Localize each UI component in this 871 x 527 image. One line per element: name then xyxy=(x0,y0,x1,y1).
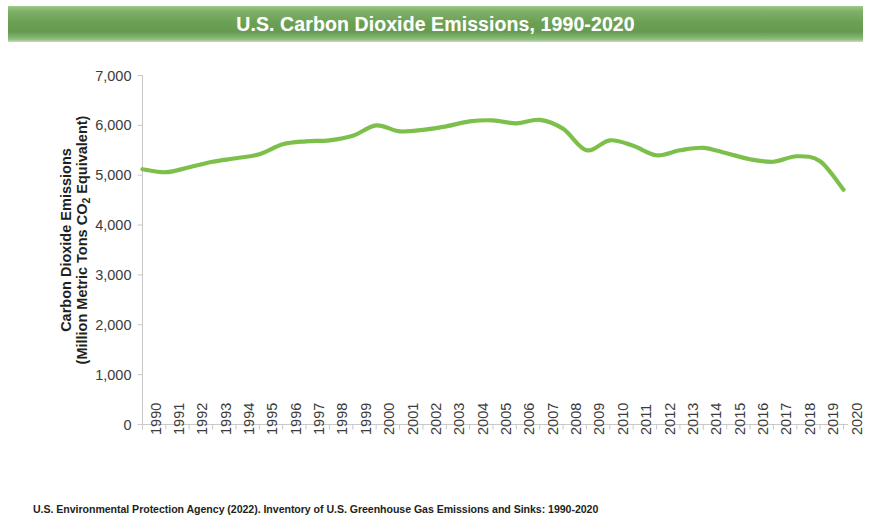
x-axis-tick-label: 2007 xyxy=(546,402,561,434)
x-axis-tick-label: 2018 xyxy=(803,402,818,434)
x-axis-tick-label: 2008 xyxy=(569,402,584,434)
x-axis-tick-label: 1990 xyxy=(149,402,164,434)
chart-container: Carbon Dioxide Emissions (Million Metric… xyxy=(0,50,871,490)
x-axis-tick-label: 2003 xyxy=(452,402,467,434)
x-axis-tick-label: 2015 xyxy=(733,402,748,434)
x-axis-tick-label: 2001 xyxy=(406,402,421,434)
x-axis-tick-label: 2019 xyxy=(826,402,841,434)
x-axis-tick-label: 1999 xyxy=(359,402,374,434)
x-axis-tick-label: 1993 xyxy=(219,402,234,434)
page-title: U.S. Carbon Dioxide Emissions, 1990-2020 xyxy=(236,13,634,36)
x-axis-tick-label: 1995 xyxy=(265,402,280,434)
y-axis-tick-label: 0 xyxy=(70,418,132,433)
chart-title-banner: U.S. Carbon Dioxide Emissions, 1990-2020 xyxy=(8,6,863,42)
x-axis-tick-label: 2009 xyxy=(592,402,607,434)
x-axis-tick-label: 1994 xyxy=(242,402,257,434)
x-axis-tick-label: 2002 xyxy=(429,402,444,434)
x-axis-tick-label: 1992 xyxy=(195,402,210,434)
y-axis-tick-label: 7,000 xyxy=(70,69,132,84)
y-axis-tick-label: 4,000 xyxy=(70,218,132,233)
y-axis-tick-label: 6,000 xyxy=(70,118,132,133)
x-axis-tick-label: 2000 xyxy=(382,402,397,434)
x-axis-tick-label: 1991 xyxy=(172,402,187,434)
x-axis-tick-label: 1997 xyxy=(312,402,327,434)
x-axis-tick-label: 2013 xyxy=(686,402,701,434)
y-axis-tick-label: 2,000 xyxy=(70,318,132,333)
emissions-line-series xyxy=(143,120,844,190)
x-axis-tick-label: 2016 xyxy=(756,402,771,434)
source-caption: U.S. Environmental Protection Agency (20… xyxy=(33,503,598,515)
x-axis-tick-label: 1998 xyxy=(335,402,350,434)
x-axis-tick-label: 2012 xyxy=(663,402,678,434)
axis-lines xyxy=(143,75,849,425)
y-axis-tick-label: 5,000 xyxy=(70,168,132,183)
x-axis-tick-label: 2005 xyxy=(499,402,514,434)
x-axis-tick-label: 2006 xyxy=(522,402,537,434)
x-axis-tick-label: 2004 xyxy=(476,402,491,434)
x-axis-tick-label: 2017 xyxy=(779,402,794,434)
x-axis-tick-label: 2020 xyxy=(850,402,865,434)
y-axis-tick-label: 1,000 xyxy=(70,368,132,383)
y-axis-ticks xyxy=(138,76,143,425)
x-axis-tick-label: 2011 xyxy=(639,403,654,434)
x-axis-tick-label: 2014 xyxy=(709,402,724,434)
x-axis-tick-label: 2010 xyxy=(616,402,631,434)
x-axis-tick-label: 1996 xyxy=(289,402,304,434)
y-axis-tick-label: 3,000 xyxy=(70,268,132,283)
